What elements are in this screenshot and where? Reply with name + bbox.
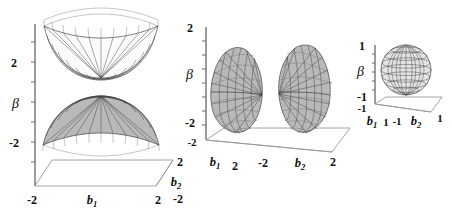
panel-3-svg: β 1 -1 -1 b1 1 -1 b2 1 [348, 0, 452, 223]
panel-2-b2-tick-neg2: -2 [258, 156, 268, 170]
panel-2-beta-label: β [185, 67, 193, 82]
panel-3-b2-tick-neg1: -1 [392, 115, 401, 127]
panel-1-upper-sheet [44, 8, 158, 80]
figure-canvas: β 2 -2 -2 2 b1 -2 2 b2 [0, 0, 452, 223]
panel-1-svg: β 2 -2 -2 2 b1 -2 2 b2 [0, 0, 190, 223]
panel-2-beta-tick-neg2: -2 [185, 116, 195, 130]
panel-sphere: β 1 -1 -1 b1 1 -1 b2 1 [348, 0, 452, 223]
panel-2-beta-tick-pos2: 2 [187, 21, 193, 35]
panel-1-beta-tick-pos2: 2 [11, 56, 17, 70]
svg-text:b2: b2 [411, 114, 422, 130]
panel-2-b2-tick-pos2: 2 [330, 155, 336, 169]
panel-split-shell-pair: β 2 -2 -2 b1 2 -2 b2 2 [178, 0, 358, 223]
panel-3-base-plane [375, 97, 442, 112]
panel-3-b1-tick-pos1: 1 [383, 116, 389, 128]
panel-1-b1-tick-pos2: 2 [155, 193, 161, 207]
panel-2-b2-label: b2 [295, 156, 306, 172]
panel-1-b1-tick-neg2: -2 [27, 193, 37, 207]
panel-2-b1-label: b1 [210, 155, 221, 171]
panel-2-b1-tick-neg2: -2 [187, 136, 197, 148]
panel-3-sphere [381, 44, 431, 95]
panel-3-b1-label: b1 [367, 114, 378, 130]
panel-3-beta-tick-pos1: 1 [359, 39, 365, 53]
panel-1-base-plane [35, 160, 173, 186]
panel-3-b2-tick-pos1: 1 [437, 112, 443, 124]
panel-2-right-shell [279, 45, 332, 133]
panel-2-left-shell [211, 48, 263, 133]
panel-2-b1-tick-pos2: 2 [232, 159, 238, 173]
svg-text:b2: b2 [295, 156, 306, 172]
svg-text:b1: b1 [210, 155, 221, 171]
panel-2-svg: β 2 -2 -2 b1 2 -2 b2 2 [178, 0, 358, 223]
panel-3-b2-label: b2 [411, 114, 422, 130]
panel-1-beta-label: β [11, 96, 19, 111]
panel-two-sheet-hyperboloid: β 2 -2 -2 2 b1 -2 2 b2 [0, 0, 190, 223]
svg-text:b1: b1 [87, 193, 98, 209]
panel-3-beta-label: β [356, 64, 364, 79]
panel-1-lower-sheet [43, 96, 159, 156]
panel-2-base-plane [206, 128, 350, 152]
panel-2-beta-axis [202, 27, 206, 140]
panel-3-b1-tick-neg1: -1 [357, 102, 366, 114]
panel-1-b1-label: b1 [87, 193, 98, 209]
svg-text:b1: b1 [367, 114, 378, 130]
panel-1-beta-tick-neg2: -2 [9, 136, 19, 150]
panel-3-beta-axis [372, 45, 375, 104]
panel-1-beta-axis [31, 24, 35, 186]
